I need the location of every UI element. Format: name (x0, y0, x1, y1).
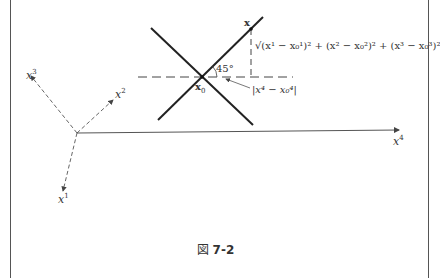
point-x-label: x (244, 18, 250, 28)
point-x0 (200, 75, 204, 79)
caption-number: 7-2 (213, 243, 235, 257)
vertical-distance-formula: √(x¹ − x₀¹)² + (x² − x₀²)² + (x³ − x₀³)² (255, 40, 440, 51)
cone-line-2 (158, 17, 263, 120)
x2-label: x2 (115, 88, 126, 100)
point-x0-label: x0 (195, 82, 205, 95)
x1-axis (63, 133, 77, 191)
x3-axis (31, 76, 77, 133)
x4-label: x4 (393, 135, 404, 147)
x2-axis (77, 100, 113, 133)
x4-axis (77, 130, 399, 133)
figure-caption: 図 7-2 (0, 240, 431, 257)
horizontal-distance-formula: |x⁴ − x₀⁴| (252, 84, 297, 95)
x3-label: x3 (26, 69, 37, 81)
pointer-arrow (226, 79, 250, 88)
caption-prefix: 図 (197, 243, 209, 257)
angle-label: 45° (216, 64, 234, 74)
x1-label: x1 (58, 193, 69, 205)
